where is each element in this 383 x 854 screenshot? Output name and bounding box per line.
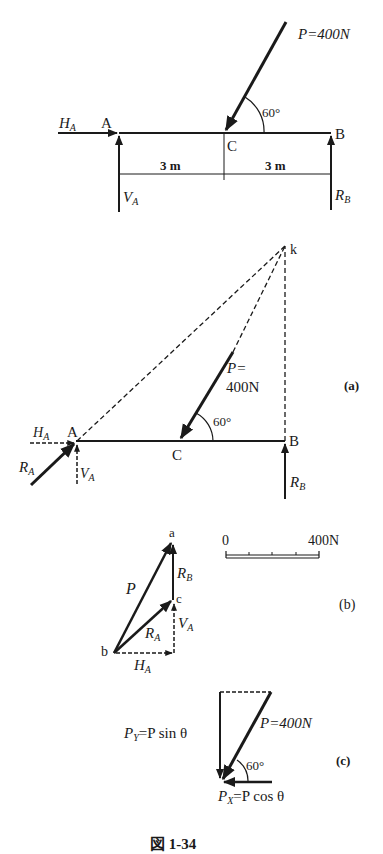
point-c-label: C (172, 447, 182, 463)
py-label: PY=P sin θ (123, 725, 187, 743)
force-label: P=400N (259, 715, 313, 731)
vector-ha-label: HA (133, 657, 152, 675)
scale-bar: 0 400N (222, 533, 339, 558)
rb-label: RB (334, 187, 350, 205)
scale-start-label: 0 (222, 533, 229, 548)
force-label-line1: P= (226, 360, 246, 376)
force-label: P=400N (297, 26, 351, 42)
panel-label-c: (c) (336, 753, 350, 768)
va-label: VA (80, 466, 96, 483)
point-b-label: b (101, 644, 108, 659)
va-label: VA (123, 189, 139, 207)
vector-rb-label: RB (176, 565, 192, 583)
figure-a: k P= 400N 60° (a) A B C HA RA VA RB (18, 242, 359, 499)
panel-label-a: (a) (344, 378, 359, 393)
diagram-canvas: P=400N 60° A B C 3 m 3 m HA VA RB k P= 4… (0, 0, 383, 854)
point-k-label: k (290, 242, 297, 257)
point-b-label: B (335, 126, 345, 142)
top-beam-figure: P=400N 60° A B C 3 m 3 m HA VA RB (58, 22, 351, 212)
point-a-label: a (169, 525, 175, 540)
ha-label: HA (32, 425, 50, 442)
angle-label: 60° (246, 758, 264, 773)
px-label: PX=P cos θ (217, 788, 284, 806)
angle-label: 60° (213, 414, 231, 429)
vector-p (114, 543, 171, 653)
point-c-label: c (176, 591, 182, 606)
ra-arrow (31, 444, 74, 485)
point-c-label: C (227, 138, 237, 154)
line-a-k (77, 246, 285, 441)
figure-c-components: P=400N 60° (c) PY=P sin θ PX=P cos θ (123, 692, 350, 806)
vector-p-label: P (125, 580, 136, 597)
force-label-line2: 400N (226, 379, 260, 395)
figure-caption: 図 1-34 (150, 836, 197, 852)
point-b-label: B (289, 433, 299, 449)
ha-label: HA (58, 115, 77, 133)
line-c-k (233, 246, 285, 352)
vector-ra-label: RA (144, 625, 161, 643)
angle-arc (196, 413, 213, 441)
point-a-label: A (101, 115, 112, 131)
ra-label: RA (18, 459, 35, 477)
panel-label-b: (b) (339, 597, 356, 613)
scale-end-label: 400N (308, 533, 339, 548)
angle-label: 60° (262, 105, 280, 120)
vector-va-label: VA (178, 615, 194, 633)
vector-ra (114, 601, 171, 653)
dimension-left: 3 m (160, 158, 181, 173)
rb-label: RB (289, 474, 305, 492)
figure-b-force-polygon: a b c P RB RA VA HA 0 400N (b) (101, 525, 356, 675)
point-a-label: A (67, 424, 78, 440)
dimension-right: 3 m (265, 158, 286, 173)
